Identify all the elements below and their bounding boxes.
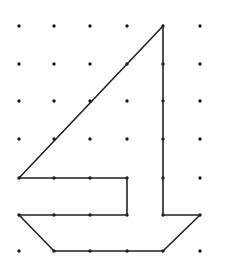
grid-dot (17, 99, 20, 102)
grid-dot (198, 249, 201, 252)
grid-dot (88, 24, 91, 27)
grid-dot (88, 137, 91, 140)
diagram-canvas (0, 0, 226, 267)
boom-rectangle (19, 178, 127, 215)
dot-grid (17, 24, 201, 252)
grid-dot (198, 99, 201, 102)
grid-dot (17, 249, 20, 252)
grid-dot (198, 137, 201, 140)
grid-dot (52, 99, 55, 102)
grid-dot (125, 24, 128, 27)
sailboat-dot-grid-diagram (0, 0, 226, 267)
grid-dot (88, 62, 91, 65)
grid-dot (17, 24, 20, 27)
grid-dot (198, 176, 201, 179)
grid-dot (198, 62, 201, 65)
grid-dot (125, 137, 128, 140)
grid-dot (17, 62, 20, 65)
grid-dot (52, 62, 55, 65)
sailboat-outline (19, 26, 200, 251)
sail-triangle (19, 26, 163, 215)
grid-dot (125, 99, 128, 102)
boat-hull (19, 215, 200, 251)
grid-dot (52, 24, 55, 27)
grid-dot (198, 24, 201, 27)
grid-dot (17, 137, 20, 140)
